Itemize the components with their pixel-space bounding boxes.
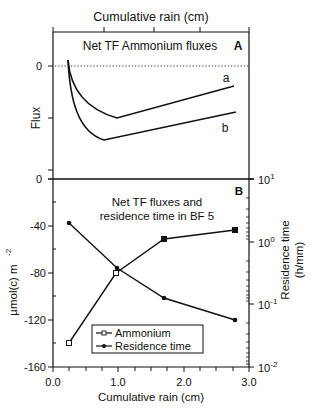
- curve-b-label: b: [222, 121, 229, 135]
- legend-residence-label: Residence time: [115, 340, 191, 352]
- panel-a-zero-label: 0: [36, 60, 42, 72]
- chart-figure: Cumulative rain (cm) 0 Net TF Ammonium f…: [0, 0, 314, 412]
- y2tick-label: 101: [258, 172, 275, 186]
- panel-b-title-line1: Net TF fluxes and: [112, 196, 203, 208]
- y-label-text: µmol(c) m: [7, 264, 19, 315]
- panel-b-letter: B: [235, 185, 243, 197]
- ytick-label: -40: [30, 220, 46, 232]
- y2-axis-label: Residence time (h/mm): [279, 220, 305, 299]
- panel-a-title: Net TF Ammonium fluxes: [83, 39, 217, 53]
- panel-b-title-line2: residence time in BF 5: [100, 210, 214, 222]
- ytick-label: -120: [24, 314, 46, 326]
- xtick-label: 2.0: [176, 376, 191, 388]
- panel-b-y-label: µmol(c) m -2: [4, 248, 19, 315]
- xtick-label: 1.0: [110, 376, 125, 388]
- bottom-x-axis-label: Cumulative rain (cm): [98, 391, 204, 403]
- top-x-axis-label: Cumulative rain (cm): [93, 10, 208, 24]
- legend-ammonium-label: Ammonium: [115, 327, 171, 339]
- y2tick-label: 10-2: [258, 360, 278, 374]
- xtick-label: 0.0: [45, 376, 60, 388]
- y2tick-label: 10-1: [258, 297, 278, 311]
- y2-tick-labels: 101 100 10-1 10-2: [258, 172, 278, 374]
- y2-label-line1: Residence time: [279, 220, 291, 299]
- legend-circle-marker-icon: [102, 344, 106, 348]
- curve-a-label: a: [223, 71, 230, 85]
- panel-b-ytick-0: 0: [36, 173, 42, 185]
- panel-b: 0 -40 -80 -120 -160 µmol(c) m -2: [4, 172, 305, 403]
- legend: Ammonium Residence time: [92, 325, 203, 353]
- x-ticks: [53, 367, 249, 372]
- panel-a-y-label: Flux: [29, 107, 43, 130]
- panel-a-letter: A: [234, 39, 243, 53]
- legend-square-marker-icon: [102, 331, 106, 335]
- ytick-label: -80: [30, 267, 46, 279]
- y-label-superscript: -2: [4, 248, 13, 256]
- curve-a: [68, 60, 234, 118]
- curve-b: [68, 60, 236, 140]
- xtick-label: 3.0: [241, 376, 256, 388]
- y2-label-line2: (h/mm): [293, 242, 305, 279]
- y2tick-label: 100: [258, 235, 275, 249]
- ytick-label: -160: [24, 361, 46, 373]
